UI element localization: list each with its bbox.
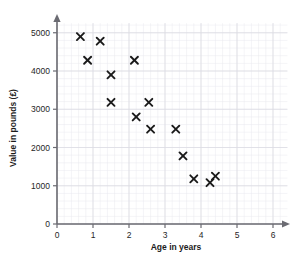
scatter-chart: 0123456 010002000300040005000 Age in yea… xyxy=(0,0,304,256)
y-tick-label: 5000 xyxy=(31,28,50,38)
y-tick-label: 4000 xyxy=(31,66,50,76)
x-axis-title: Age in years xyxy=(151,242,202,252)
x-tick-label: 5 xyxy=(235,230,240,240)
x-tick-label: 3 xyxy=(163,230,168,240)
x-tick-label: 4 xyxy=(199,230,204,240)
y-axis-title: Value in pounds (£) xyxy=(8,89,18,167)
x-tick-label: 1 xyxy=(91,230,96,240)
x-tick-label: 0 xyxy=(55,230,60,240)
y-tick-label: 0 xyxy=(45,219,50,229)
chart-canvas: 0123456 010002000300040005000 Age in yea… xyxy=(0,0,304,256)
y-tick-label: 2000 xyxy=(31,143,50,153)
y-tick-label: 3000 xyxy=(31,104,50,114)
y-tick-label: 1000 xyxy=(31,181,50,191)
x-tick-label: 6 xyxy=(271,230,276,240)
x-tick-label: 2 xyxy=(127,230,132,240)
